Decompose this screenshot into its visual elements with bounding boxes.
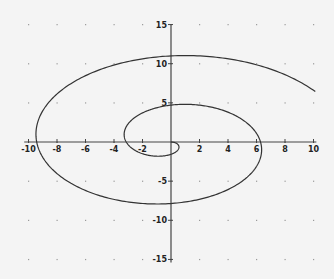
svg-text:15: 15 [156,21,168,30]
spiral-curve [36,56,315,204]
svg-text:-10: -10 [21,145,36,154]
svg-text:-10: -10 [153,216,168,225]
svg-text:4: 4 [225,145,231,154]
svg-text:-15: -15 [153,255,168,264]
svg-text:-5: -5 [158,177,167,186]
svg-text:-8: -8 [53,145,62,154]
x-tick-labels: -10-8-6-4-2246810 [21,145,319,154]
svg-text:10: 10 [308,145,320,154]
svg-text:-6: -6 [81,145,90,154]
svg-text:8: 8 [282,145,288,154]
svg-text:6: 6 [254,145,260,154]
svg-text:2: 2 [197,145,203,154]
spiral-plot: -10-8-6-4-2246810 15105-5-10-15 [0,0,334,279]
axes [24,25,316,263]
svg-text:10: 10 [156,60,168,69]
svg-text:-4: -4 [110,145,119,154]
